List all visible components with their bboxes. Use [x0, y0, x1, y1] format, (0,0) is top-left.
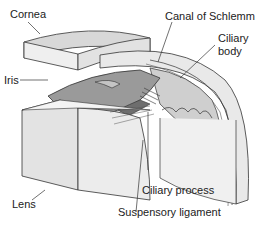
label-iris: Iris: [4, 74, 19, 86]
eye-diagram: Cornea Canal of Schlemm Ciliary body Iri…: [0, 0, 263, 227]
label-canal-of-schlemm: Canal of Schlemm: [165, 10, 255, 22]
label-ciliary-body-line1: Ciliary: [218, 32, 249, 44]
label-ciliary-body-line2: body: [218, 45, 242, 57]
label-suspensory-ligament: Suspensory ligament: [118, 206, 221, 218]
label-ciliary-process: Ciliary process: [142, 184, 214, 196]
lens-shape: [22, 100, 150, 200]
label-lens: Lens: [12, 198, 36, 210]
label-cornea: Cornea: [10, 8, 46, 20]
